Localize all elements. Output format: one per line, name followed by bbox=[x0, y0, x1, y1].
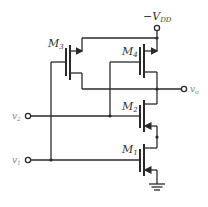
svg-text:vo: vo bbox=[190, 84, 199, 95]
svg-text:v1: v1 bbox=[12, 155, 21, 166]
m1-label: M bbox=[121, 143, 134, 156]
circuit-diagram: −VDD M3 M4 vo M2 bbox=[0, 0, 208, 207]
ground-icon bbox=[149, 184, 165, 190]
svg-text:v2: v2 bbox=[12, 111, 21, 122]
transistor-m4: M4 bbox=[110, 38, 157, 89]
supply-terminal: −VDD bbox=[143, 10, 172, 38]
schematic-svg: −VDD M3 M4 vo M2 bbox=[0, 0, 208, 207]
svg-text:−VDD: −VDD bbox=[143, 10, 172, 24]
m2-label: M bbox=[121, 100, 134, 113]
input-v1-terminal: v1 bbox=[12, 155, 140, 166]
output-terminal: vo bbox=[181, 84, 199, 95]
svg-text:M4: M4 bbox=[121, 45, 138, 59]
m4-label: M bbox=[121, 45, 134, 58]
svg-text:M2: M2 bbox=[121, 100, 138, 114]
m3-label: M bbox=[47, 37, 60, 50]
transistor-m3: M3 bbox=[47, 37, 82, 89]
input-v2-terminal: v2 bbox=[12, 111, 110, 122]
svg-text:M1: M1 bbox=[121, 143, 138, 157]
transistor-m2: M2 bbox=[110, 89, 157, 137]
svg-text:M3: M3 bbox=[47, 37, 64, 51]
supply-label: −V bbox=[143, 10, 161, 23]
